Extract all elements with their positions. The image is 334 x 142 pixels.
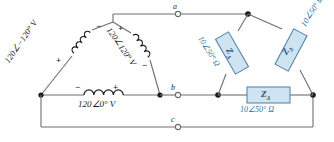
wire-load-left-upper xyxy=(238,14,248,31)
terminal-circle-a[interactable] xyxy=(175,11,180,16)
wire-load-left-lower xyxy=(218,74,226,95)
polarity-plus-source-bc: + xyxy=(118,24,123,33)
coil-source-ab xyxy=(71,30,91,53)
terminal-label-c: c xyxy=(171,116,175,124)
impedance-symbol-ca: ZΔ xyxy=(261,90,270,101)
terminal-label-b: b xyxy=(171,84,175,92)
circuit-diagram: 120∠−120° V 120∠120° V 120∠0° V + − + − … xyxy=(0,0,334,142)
polarity-minus-source-ca: − xyxy=(75,83,80,92)
terminal-circle-c[interactable] xyxy=(175,124,180,129)
wire-source-right-lower xyxy=(150,60,160,95)
circuit-schematic-svg xyxy=(0,0,334,142)
polarity-minus-source-ab: − xyxy=(96,22,101,31)
polarity-minus-source-bc: − xyxy=(142,61,147,70)
coil-source-bc xyxy=(133,33,151,57)
polarity-plus-source-ca: + xyxy=(113,83,118,92)
terminal-circle-b[interactable] xyxy=(175,92,180,97)
source-label-ca: 120∠0° V xyxy=(78,100,115,109)
wire-load-right-lower xyxy=(300,70,313,95)
impedance-symbol-ca-subscript: Δ xyxy=(267,95,271,101)
impedance-value-ca: 10∠50° Ω xyxy=(240,106,274,114)
wire-load-right-upper xyxy=(248,14,282,29)
terminal-label-a: a xyxy=(173,3,177,11)
polarity-plus-source-ab: + xyxy=(56,56,61,65)
